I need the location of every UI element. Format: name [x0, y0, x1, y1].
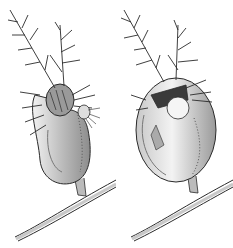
left-illustration-panel	[0, 0, 116, 248]
bladder-trap-drawing-right	[116, 0, 233, 248]
bladder-trap-drawing-left	[0, 0, 116, 248]
right-illustration-panel	[116, 0, 233, 248]
